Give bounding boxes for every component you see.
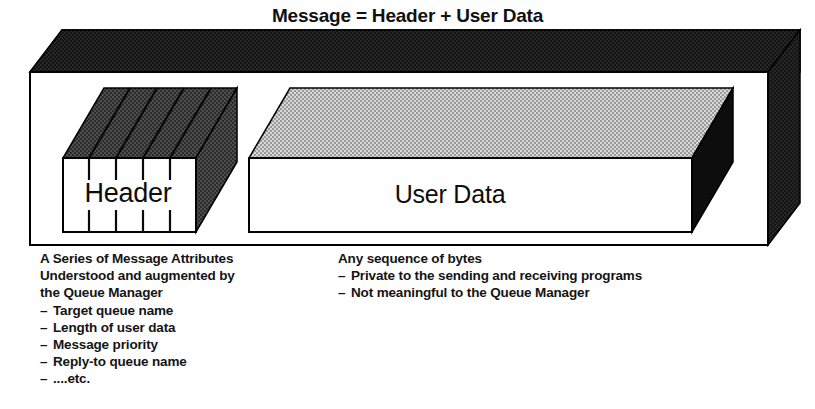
list-item: – Reply-to queue name	[40, 353, 330, 370]
list-dash: –	[40, 353, 47, 370]
user-data-block-label: User Data	[300, 180, 600, 209]
list-dash: –	[338, 267, 345, 284]
list-item-label: ....etc.	[53, 370, 330, 387]
list-item: – Private to the sending and receiving p…	[338, 267, 668, 284]
list-item-label: Private to the sending and receiving pro…	[351, 267, 668, 284]
header-caption-list: – Target queue name – Length of user dat…	[40, 302, 330, 388]
list-item-label: Reply-to queue name	[53, 353, 330, 370]
list-item-label: Not meaningful to the Queue Manager	[351, 284, 668, 301]
diagram-page: Message = Header + User Data	[0, 0, 815, 409]
header-caption: A Series of Message Attributes Understoo…	[40, 250, 330, 388]
list-dash: –	[40, 336, 47, 353]
list-item-label: Target queue name	[53, 302, 330, 319]
list-item-label: Message priority	[53, 336, 330, 353]
list-item: – Length of user data	[40, 319, 330, 336]
user-data-caption-list: – Private to the sending and receiving p…	[338, 267, 668, 301]
user-data-caption: Any sequence of bytes – Private to the s…	[338, 250, 668, 302]
list-dash: –	[40, 319, 47, 336]
header-caption-lead-line-2: Understood and augmented by	[40, 267, 330, 284]
header-caption-lead: A Series of Message Attributes Understoo…	[40, 250, 330, 302]
user-data-caption-lead-line-1: Any sequence of bytes	[338, 250, 668, 267]
list-item-label: Length of user data	[53, 319, 330, 336]
list-item: – Message priority	[40, 336, 330, 353]
user-data-caption-lead: Any sequence of bytes	[338, 250, 668, 267]
list-dash: –	[338, 284, 345, 301]
outer-box-top-slab	[30, 30, 800, 72]
header-caption-lead-line-3: the Queue Manager	[40, 284, 330, 301]
header-block-label: Header	[66, 178, 190, 209]
list-item: – Target queue name	[40, 302, 330, 319]
user-data-block-top-face	[249, 88, 733, 158]
header-caption-lead-line-1: A Series of Message Attributes	[40, 250, 330, 267]
list-item: – Not meaningful to the Queue Manager	[338, 284, 668, 301]
list-item: – ....etc.	[40, 370, 330, 387]
list-dash: –	[40, 302, 47, 319]
list-dash: –	[40, 370, 47, 387]
